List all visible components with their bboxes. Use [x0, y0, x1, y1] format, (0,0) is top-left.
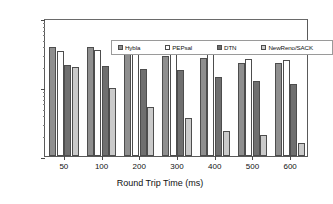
y-minor-tick: [43, 23, 46, 24]
y-minor-tick: [43, 41, 46, 42]
x-tick-label: 100: [82, 162, 122, 171]
y-minor-tick: [43, 125, 46, 126]
x-tick-mark: [290, 156, 291, 160]
bar: [177, 70, 184, 156]
x-tick-label: 50: [44, 162, 84, 171]
y-minor-tick: [43, 104, 46, 105]
y-minor-tick: [43, 27, 46, 28]
legend-label: Hybla: [125, 44, 140, 51]
bar: [162, 56, 169, 156]
x-tick-label: 600: [270, 162, 310, 171]
bar: [102, 66, 109, 157]
bar: [290, 84, 297, 156]
bar: [298, 143, 305, 156]
bar: [49, 47, 56, 156]
legend-label: DTN: [224, 44, 236, 51]
y-minor-tick: [43, 110, 46, 111]
legend-item-dtn: DTN: [211, 44, 255, 51]
legend-swatch-icon: [261, 45, 266, 50]
bar: [238, 63, 245, 156]
legend: Hybla PEPsal DTN NewReno/SACK: [111, 40, 333, 55]
legend-item-pepsal: PEPsal: [159, 44, 211, 51]
bar: [94, 50, 101, 156]
x-tick-mark: [139, 156, 140, 160]
bar: [132, 49, 139, 156]
y-minor-tick: [43, 137, 46, 138]
bar: [140, 69, 147, 156]
legend-item-newreno-sack: NewReno/SACK: [255, 44, 332, 51]
y-minor-tick: [43, 68, 46, 69]
y-tick-mark: [41, 158, 45, 159]
y-minor-tick: [43, 47, 46, 48]
x-tick-label: 300: [157, 162, 197, 171]
bar: [283, 60, 290, 156]
bar: [207, 54, 214, 156]
x-tick-mark: [177, 156, 178, 160]
y-minor-tick: [43, 96, 46, 97]
bar: [215, 77, 222, 157]
legend-label: NewReno/SACK: [268, 44, 313, 51]
bar-group: [49, 20, 79, 156]
bar: [185, 118, 192, 156]
bar: [87, 47, 94, 156]
y-minor-tick: [43, 100, 46, 101]
bar: [200, 58, 207, 156]
bar: [109, 88, 116, 156]
y-tick-mark: [41, 89, 45, 90]
y-minor-tick: [43, 116, 46, 117]
bar: [124, 54, 131, 156]
bar: [245, 59, 252, 156]
x-tick-mark: [252, 156, 253, 160]
bar: [72, 67, 79, 156]
x-axis-title: Round Trip Time (ms): [0, 178, 320, 188]
y-minor-tick: [43, 56, 46, 57]
x-tick-mark: [64, 156, 65, 160]
bar: [253, 81, 260, 156]
bar: [57, 51, 64, 156]
bar: [64, 65, 71, 156]
x-tick-mark: [215, 156, 216, 160]
bar: [170, 52, 177, 156]
plot-area: 100100010000 50100200300400500600 Hybla …: [44, 19, 308, 157]
x-tick-mark: [102, 156, 103, 160]
y-minor-tick: [43, 35, 46, 36]
y-tick-mark: [41, 20, 45, 21]
bar: [147, 107, 154, 156]
y-minor-tick: [43, 92, 46, 93]
legend-swatch-icon: [118, 45, 123, 50]
bar: [260, 135, 267, 157]
y-minor-tick: [43, 31, 46, 32]
legend-label: PEPsal: [172, 44, 192, 51]
x-tick-label: 400: [195, 162, 235, 171]
legend-swatch-icon: [165, 45, 170, 50]
legend-swatch-icon: [217, 45, 222, 50]
legend-item-hybla: Hybla: [112, 44, 159, 51]
x-tick-label: 500: [232, 162, 272, 171]
bar: [223, 131, 230, 156]
x-tick-label: 200: [119, 162, 159, 171]
bar: [275, 63, 282, 156]
